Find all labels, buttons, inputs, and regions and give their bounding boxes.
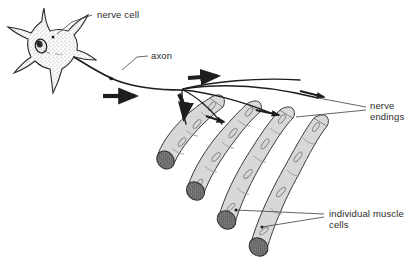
label-nerve-endings-line1: nerve [370,100,404,111]
signal-arrow-2 [188,76,217,78]
label-muscle-cells-line2: cells [329,219,404,230]
label-nerve-endings-line2: endings [370,111,404,122]
axon-fiber [74,57,182,90]
label-axon: axon [151,50,172,61]
leader-dot-muscle-b [261,226,264,229]
label-muscle-cells-line1: individual muscle [329,208,404,219]
terminal-branch-4 [183,86,318,98]
label-individual-muscle-cells: individual muscle cells [329,208,404,230]
nerve-cell-body [8,8,96,93]
signal-arrow-3 [179,94,184,118]
leader-dot-muscle-a [235,209,238,212]
label-nerve-cell: nerve cell [97,9,139,20]
figure-canvas: nerve cell axon nerve endings individual… [0,0,412,263]
leader-nerve-endings-b [296,110,366,117]
muscle-fiber-4 [245,115,328,260]
label-nerve-endings: nerve endings [370,100,404,122]
leader-nerve-endings-a [318,98,366,107]
soma-granule [52,36,55,39]
leader-axon [122,56,148,70]
